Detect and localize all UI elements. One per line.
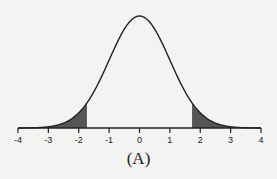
x-tick-label: -3 xyxy=(44,135,52,145)
x-tick-label: -2 xyxy=(75,135,83,145)
shaded-tails xyxy=(18,103,261,128)
x-tick-label: -4 xyxy=(14,135,22,145)
density-curve xyxy=(18,16,261,128)
x-tick-label: -1 xyxy=(105,135,113,145)
x-tick-label: 3 xyxy=(228,135,233,145)
chart-caption: (A) xyxy=(0,149,277,169)
x-tick-label: 0 xyxy=(137,135,142,145)
x-axis-ticks: -4-3-2-101234 xyxy=(14,128,264,145)
x-tick-label: 4 xyxy=(258,135,263,145)
x-tick-label: 2 xyxy=(198,135,203,145)
x-tick-label: 1 xyxy=(167,135,172,145)
